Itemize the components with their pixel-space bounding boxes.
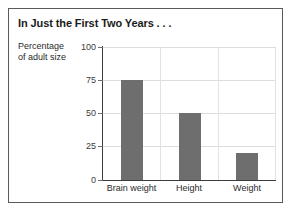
category-separator-1 — [160, 47, 161, 180]
y-tick-label-0: 0 — [74, 176, 96, 185]
chart-figure: In Just the First Two Years . . . Percen… — [0, 0, 292, 211]
y-tick-label-75: 75 — [74, 76, 96, 85]
y-tick-label-100: 100 — [74, 43, 96, 52]
plot-right-edge — [275, 47, 276, 180]
chart-title: In Just the First Two Years . . . — [18, 17, 171, 29]
y-axis-title-line-2: of adult size — [18, 52, 80, 63]
y-tick-mark-75 — [98, 80, 103, 81]
x-axis-label-height: Height — [160, 183, 218, 194]
y-tick-mark-50 — [98, 113, 103, 114]
y-tick-mark-100 — [98, 47, 103, 48]
y-tick-mark-25 — [98, 146, 103, 147]
bar-brain-weight — [121, 80, 143, 180]
plot-area — [103, 47, 276, 180]
bar-height — [179, 113, 201, 180]
gridline-100 — [103, 47, 276, 48]
category-separator-2 — [218, 47, 219, 180]
y-tick-mark-0 — [98, 180, 103, 181]
y-axis-title-line-1: Percentage — [18, 41, 80, 52]
y-tick-label-50: 50 — [74, 109, 96, 118]
x-axis-label-weight: Weight — [218, 183, 276, 194]
x-axis-line — [102, 180, 276, 181]
y-tick-label-25: 25 — [74, 142, 96, 151]
bar-weight — [236, 153, 258, 180]
y-axis-title: Percentage of adult size — [18, 41, 80, 63]
x-axis-label-brain-weight: Brain weight — [103, 183, 160, 194]
